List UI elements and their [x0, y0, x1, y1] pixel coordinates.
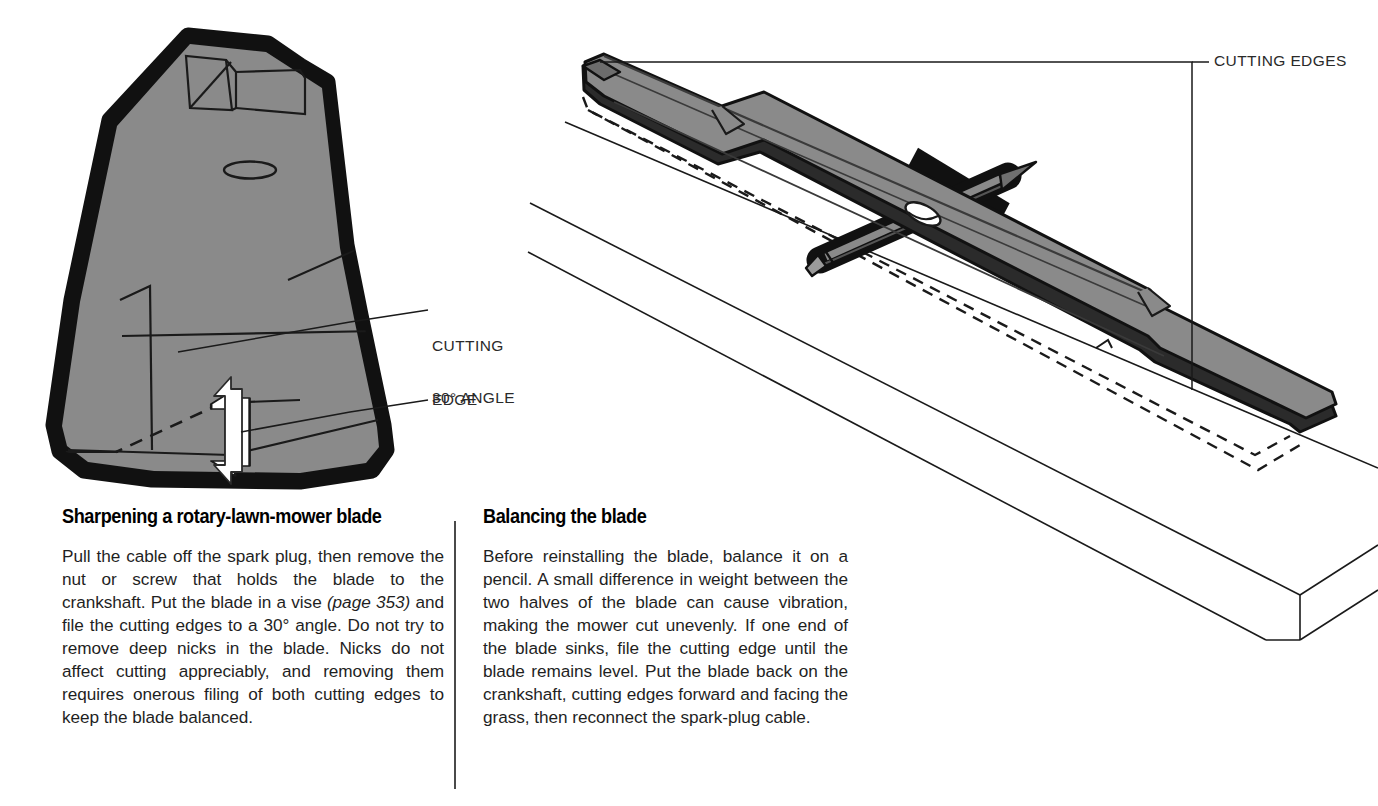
callout-thirty-degree-angle: 30° ANGLE — [432, 389, 515, 407]
pencil-tip — [1000, 162, 1036, 190]
blade-trailing-crease — [614, 102, 1164, 356]
left-blade-body — [62, 44, 379, 473]
leader-line-cutting-edges — [600, 62, 1192, 390]
blade-leading-edge — [604, 56, 1150, 294]
callout-cutting-edge: CUTTING EDGE — [432, 300, 504, 446]
blade-notch-left — [712, 106, 744, 134]
heading-sharpening: Sharpening a rotary-lawn-mower blade — [62, 505, 417, 528]
column-sharpening: Sharpening a rotary-lawn-mower blade Pul… — [62, 505, 454, 795]
left-blade-top-flange — [236, 70, 305, 114]
left-blade-lower-step — [120, 286, 152, 450]
leader-line-30-angle — [241, 400, 428, 432]
filing-arrow-shape — [214, 377, 242, 484]
blade-leading-edge-2 — [600, 68, 1146, 306]
pencil-eraser — [806, 255, 826, 276]
left-blade-bevel-solid — [222, 400, 300, 403]
blade-center-hole — [902, 197, 944, 230]
blade-center-hole-shadow — [908, 212, 938, 219]
blade-step-right — [1096, 340, 1112, 348]
left-blade-closeup — [54, 36, 428, 484]
blade-shadow-dashed — [583, 97, 1290, 455]
blade-shadow-dashed-lower — [588, 110, 1300, 470]
heading-balancing: Balancing the blade — [483, 505, 822, 528]
filing-direction-arrow — [211, 389, 249, 476]
blade-left-lip — [583, 60, 620, 80]
table-back-edge — [565, 122, 1378, 468]
text-block: Sharpening a rotary-lawn-mower blade Pul… — [62, 505, 1314, 795]
body-sharpening-part2: and file the cutting edges to a 30° angl… — [62, 592, 444, 727]
body-sharpening: Pull the cable off the spark plug, then … — [62, 545, 444, 729]
blade-top-face — [585, 54, 1336, 418]
pencil-barrel-highlight — [826, 179, 1000, 257]
callout-cutting-edge-line1: CUTTING — [432, 337, 504, 355]
blade-notch-right — [1138, 288, 1170, 316]
pencil — [806, 148, 1036, 276]
left-blade-mounting-hole — [224, 162, 276, 179]
pencil-barrel — [820, 176, 1008, 260]
left-blade-top-lip — [226, 60, 236, 110]
left-blade-outline — [54, 36, 386, 481]
pencil-barrel-line — [824, 186, 1002, 264]
left-blade-notch-inner — [190, 62, 231, 108]
callout-cutting-edges: CUTTING EDGES — [1214, 52, 1347, 70]
page-root: CUTTING EDGES CUTTING EDGE 30° ANGLE Sha… — [0, 0, 1378, 806]
body-balancing: Before reinstalling the blade, balance i… — [483, 545, 848, 729]
leader-line-cutting-edge — [178, 310, 428, 352]
column-balancing: Balancing the blade Before reinstalling … — [456, 505, 848, 795]
left-blade-bevel-edge — [68, 420, 378, 455]
left-blade-notch-upper — [186, 56, 232, 110]
pencil-ferrule — [826, 252, 834, 264]
left-blade-main-crease — [122, 331, 378, 336]
left-blade-bevel-dashed — [116, 403, 222, 452]
left-blade-right-crease — [288, 248, 360, 280]
body-sharpening-page-ref: (page 353) — [327, 592, 410, 612]
blade-underside — [583, 60, 1336, 432]
